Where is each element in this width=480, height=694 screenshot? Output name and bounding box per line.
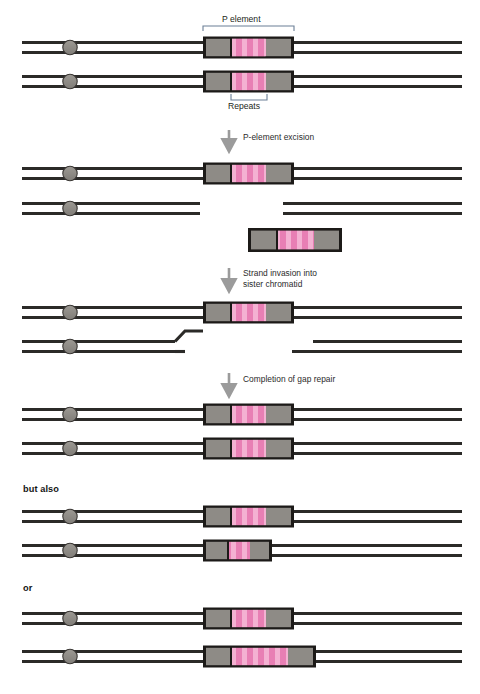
p-element-box	[203, 37, 294, 59]
panel-excised	[22, 163, 462, 253]
excised-p-element	[248, 228, 342, 252]
alternative-label-but-also: but also	[23, 484, 59, 495]
centromere	[63, 305, 77, 319]
repeats-bracket	[231, 94, 267, 100]
p-element-box	[203, 608, 294, 630]
p-element-box	[203, 71, 294, 93]
centromere	[63, 407, 77, 421]
centromere	[63, 339, 77, 353]
centromere	[63, 40, 77, 54]
centromere	[63, 441, 77, 455]
p-element-box	[203, 163, 294, 185]
p-element-box	[203, 506, 294, 528]
centromere	[63, 543, 77, 557]
panel-initial	[22, 26, 462, 100]
centromere	[63, 201, 77, 215]
p-element-bracket	[203, 26, 294, 31]
step-label-excision: P-element excision	[243, 133, 314, 143]
panel-invasion	[22, 302, 462, 354]
chromatid-row-initial-1	[22, 37, 462, 59]
chromatid-row-butalso-1	[22, 506, 462, 528]
panel-or	[22, 608, 462, 668]
step-label-strand-invasion-line1: Strand invasion into	[243, 269, 317, 279]
repeats-label: Repeats	[228, 101, 260, 111]
centromere	[63, 649, 77, 663]
p-element-box	[203, 302, 294, 324]
alternative-label-or: or	[23, 583, 32, 594]
p-element-gap-repair-diagram: P element Repeats P-element excision Str…	[0, 0, 480, 694]
centromere	[63, 74, 77, 88]
step-label-strand-invasion-line2: sister chromatid	[243, 280, 302, 290]
chromatid-row-invasion-2	[22, 331, 462, 354]
chromatid-row-excised-2-broken	[22, 201, 462, 215]
chromatid-row-or-1	[22, 608, 462, 630]
invading-strand	[175, 331, 203, 342]
p-element-box	[203, 438, 294, 460]
centromere	[63, 611, 77, 625]
step-label-gap-repair: Completion of gap repair	[243, 375, 335, 385]
chromatid-row-repaired-1	[22, 404, 462, 426]
panel-repaired	[22, 404, 462, 460]
chromatid-row-invasion-1	[22, 302, 462, 324]
chromatid-row-initial-2	[22, 71, 462, 93]
p-element-box	[203, 404, 294, 426]
p-element-label: P element	[222, 14, 261, 24]
p-element-box-short	[203, 540, 272, 562]
panel-but-also	[22, 506, 462, 562]
chromatid-row-excised-1	[22, 163, 462, 185]
p-element-box-long	[203, 646, 316, 668]
chromatid-row-or-2	[22, 646, 462, 668]
chromatid-row-butalso-2	[22, 540, 462, 562]
chromatid-row-repaired-2	[22, 438, 462, 460]
centromere	[63, 166, 77, 180]
centromere	[63, 509, 77, 523]
